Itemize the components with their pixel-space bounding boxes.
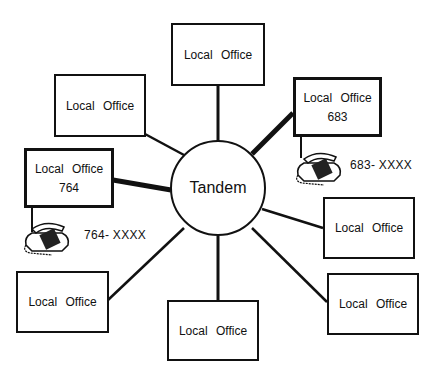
tandem-network-diagram: Local Office Local Office Local Office 6… bbox=[0, 0, 438, 381]
office-bottom: Local Office bbox=[167, 300, 259, 361]
office-683: Local Office 683 bbox=[293, 77, 382, 137]
phone-number-683: 683- XXXX bbox=[350, 158, 412, 172]
office-top: Local Office bbox=[171, 23, 265, 86]
office-bottom-right: Local Office bbox=[327, 273, 419, 335]
phone-number-764: 764- XXXX bbox=[84, 228, 146, 242]
office-right: Local Office bbox=[323, 197, 415, 259]
tandem-hub: Tandem bbox=[170, 140, 266, 236]
office-label: Local Office bbox=[184, 48, 252, 62]
hub-label: Tandem bbox=[190, 179, 247, 197]
office-label: Local Office bbox=[339, 297, 407, 311]
office-label: Local Office bbox=[35, 162, 103, 176]
telephone-icon bbox=[294, 145, 346, 187]
office-label: Local Office bbox=[303, 91, 371, 105]
office-number: 683 bbox=[327, 110, 347, 124]
office-label: Local Office bbox=[66, 99, 134, 113]
office-label: Local Office bbox=[335, 221, 403, 235]
office-bottom-left: Local Office bbox=[16, 271, 109, 333]
office-top-left: Local Office bbox=[54, 74, 146, 137]
office-label: Local Office bbox=[179, 324, 247, 338]
office-764: Local Office 764 bbox=[24, 148, 114, 208]
telephone-icon bbox=[22, 215, 74, 257]
office-label: Local Office bbox=[28, 295, 96, 309]
office-number: 764 bbox=[59, 181, 79, 195]
